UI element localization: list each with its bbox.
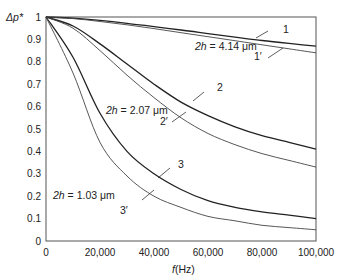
x-tick-label: 40,000	[139, 247, 170, 258]
annotation-1-03: 2h = 1.03 μm	[52, 189, 115, 201]
leader-line-3	[158, 168, 170, 178]
leader-line-1p	[268, 48, 283, 58]
y-tick-label: 0.4	[27, 146, 41, 157]
y-tick-label: 0.1	[27, 213, 41, 224]
y-tick-label: 0.7	[27, 79, 41, 90]
y-tick-label: 1	[35, 12, 41, 23]
y-tick-label: 0.8	[27, 56, 41, 67]
curve-1	[46, 17, 316, 46]
curve-label-1: 1	[283, 23, 289, 35]
annotation-4-14: 2h = 4.14 μm	[194, 40, 257, 52]
y-tick-label: 0.3	[27, 168, 41, 179]
line-chart: 00.10.20.30.40.50.60.70.80.91 020,00040,…	[0, 0, 343, 280]
curve-label-3: 3	[178, 158, 184, 170]
curve-2	[46, 17, 316, 149]
leader-line-1	[256, 31, 268, 38]
curve-label-2p: 2′	[160, 115, 168, 127]
x-axis-ticks: 020,00040,00060,00080,000100,000	[43, 247, 334, 258]
y-tick-label: 0.6	[27, 101, 41, 112]
y-tick-label: 0.2	[27, 191, 41, 202]
y-tick-label: 0	[35, 236, 41, 247]
y-tick-label: 0.9	[27, 34, 41, 45]
x-tick-label: 100,000	[298, 247, 335, 258]
annotation-2-07: 2h = 2.07 μm	[105, 104, 168, 116]
x-tick-label: 60,000	[193, 247, 224, 258]
curve-label-3p: 3′	[120, 204, 128, 216]
curve-2p	[46, 17, 316, 167]
curve-label-2: 2	[217, 81, 223, 93]
x-tick-label: 20,000	[85, 247, 116, 258]
x-tick-label: 80,000	[247, 247, 278, 258]
y-axis-ticks: 00.10.20.30.40.50.60.70.80.91	[27, 12, 41, 247]
leader-line-2	[193, 92, 204, 101]
y-axis-label: Δp*	[5, 11, 24, 23]
y-tick-label: 0.5	[27, 124, 41, 135]
x-tick-label: 0	[43, 247, 49, 258]
x-axis-label: f(Hz)	[172, 263, 195, 275]
